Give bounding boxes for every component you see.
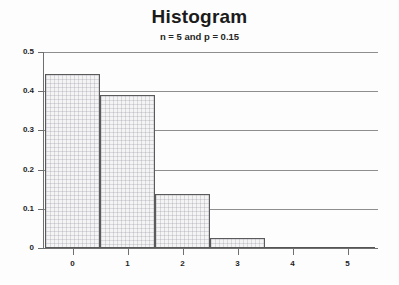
- chart-title: Histogram: [0, 6, 399, 28]
- y-axis-tick-label: 0.2: [0, 165, 34, 174]
- y-axis-tick: [38, 209, 44, 210]
- y-axis-tick: [38, 130, 44, 131]
- x-axis-tick: [348, 249, 349, 255]
- x-axis-tick: [183, 249, 184, 255]
- histogram-bar: [320, 247, 375, 248]
- histogram-bar: [265, 247, 320, 248]
- y-axis-tick: [38, 170, 44, 171]
- y-axis-tick-label: 0.3: [0, 125, 34, 134]
- x-axis-tick-label: 1: [116, 259, 140, 268]
- y-axis-line: [43, 52, 44, 249]
- y-axis-tick-label: 0: [0, 243, 34, 252]
- gridline: [44, 52, 378, 53]
- y-axis-tick: [38, 91, 44, 92]
- histogram-bar: [155, 194, 210, 248]
- x-axis-tick-label: 0: [61, 259, 85, 268]
- x-axis-line: [44, 248, 378, 249]
- x-axis-tick: [73, 249, 74, 255]
- x-axis-tick-label: 5: [336, 259, 360, 268]
- histogram-bar: [45, 74, 100, 248]
- y-axis-tick-label: 0.5: [0, 47, 34, 56]
- y-axis-tick: [38, 52, 44, 53]
- x-axis-tick: [238, 249, 239, 255]
- y-axis-tick-label: 0.1: [0, 204, 34, 213]
- x-axis-tick: [293, 249, 294, 255]
- histogram-figure: Histogram n = 5 and p = 0.15 00.10.20.30…: [0, 0, 399, 285]
- x-axis-tick-label: 4: [281, 259, 305, 268]
- histogram-bar: [210, 238, 265, 248]
- chart-subtitle: n = 5 and p = 0.15: [0, 31, 399, 42]
- histogram-bar: [100, 95, 155, 248]
- y-axis-tick-label: 0.4: [0, 86, 34, 95]
- x-axis-tick-label: 3: [226, 259, 250, 268]
- y-axis-tick: [38, 248, 44, 249]
- x-axis-tick-label: 2: [171, 259, 195, 268]
- x-axis-tick: [128, 249, 129, 255]
